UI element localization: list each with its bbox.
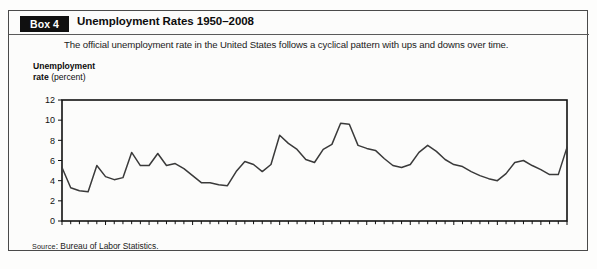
box-subtitle: The official unemployment rate in the Un… bbox=[64, 39, 508, 50]
y-tick-label: 2 bbox=[50, 196, 55, 206]
source-value: Bureau of Labor Statistics. bbox=[58, 241, 159, 251]
y-tick-label: 10 bbox=[45, 115, 55, 125]
header-divider bbox=[9, 34, 589, 35]
y-axis-tick-labels: 024681012 bbox=[45, 95, 55, 225]
y-tick-label: 8 bbox=[50, 136, 55, 146]
box-title: Unemployment Rates 1950–2008 bbox=[77, 15, 254, 27]
source-note: Source: Bureau of Labor Statistics. bbox=[32, 241, 159, 251]
chart-container: 024681012 195055606570758085909520000508 bbox=[20, 75, 576, 225]
y-tick-label: 0 bbox=[50, 216, 55, 225]
box-number-tab: Box 4 bbox=[20, 16, 69, 32]
screenshot-page: Box 4 Unemployment Rates 1950–2008 The o… bbox=[0, 0, 597, 269]
y-tick-label: 4 bbox=[50, 176, 55, 186]
source-label: Source bbox=[32, 242, 56, 251]
box-frame: Box 4 Unemployment Rates 1950–2008 The o… bbox=[8, 10, 588, 251]
box-header: Box 4 Unemployment Rates 1950–2008 bbox=[9, 11, 587, 35]
series-unemployment-rate bbox=[62, 123, 567, 192]
unemployment-line-chart: 024681012 195055606570758085909520000508 bbox=[20, 75, 576, 225]
y-tick-label: 6 bbox=[50, 156, 55, 166]
y-axis-title-line1: Unemployment bbox=[33, 61, 95, 71]
y-tick-label: 12 bbox=[45, 95, 55, 105]
